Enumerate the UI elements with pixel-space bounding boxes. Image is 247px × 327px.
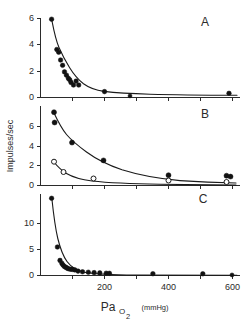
panel-c-ytick-0: 0 [29, 270, 34, 280]
panel-c-xtick-600: 600 [225, 282, 240, 292]
panel-a-ytick-4: 4 [29, 39, 34, 49]
panel-b-points-open [52, 159, 230, 184]
panel-a-ytick-0: 0 [29, 92, 34, 102]
chart-svg: 6 4 2 0 [0, 0, 247, 327]
panel-b-ytick-6: 6 [29, 121, 34, 131]
x-axis-label-pa: Pa [101, 300, 116, 314]
panel-c: 10 5 0 200 400 600 [24, 192, 240, 292]
panel-letter-b: B [201, 107, 209, 121]
panel-c-ytick-10: 10 [24, 218, 34, 228]
panel-c-curve [52, 198, 237, 275]
panel-letter-a: A [201, 15, 209, 29]
panel-a-y-ticks [37, 19, 41, 98]
panel-c-xtick-200: 200 [97, 282, 112, 292]
panel-c-xtick-400: 400 [161, 282, 176, 292]
x-axis-label-group: Pa O 2 (mmHg) [101, 300, 169, 321]
panel-a: 6 4 2 0 [29, 13, 240, 102]
panel-a-ytick-2: 2 [29, 66, 34, 76]
panel-b-y-ticks [37, 126, 41, 185]
panel-a-points [49, 17, 231, 98]
panel-b-ytick-2: 2 [29, 160, 34, 170]
panel-c-ytick-5: 5 [29, 244, 34, 254]
x-axis-label-unit: (mmHg) [141, 303, 169, 312]
x-axis-label-o: O [119, 307, 125, 316]
panel-b-ytick-0: 0 [29, 180, 34, 190]
panel-b-ytick-4: 4 [29, 141, 34, 151]
panel-a-x-ticks [73, 98, 233, 102]
figure-container: 6 4 2 0 [0, 0, 247, 327]
panel-a-ytick-6: 6 [29, 13, 34, 23]
y-axis-label: Impulses/sec [5, 119, 15, 172]
panel-b-x-ticks [73, 186, 233, 190]
panel-c-y-ticks [37, 223, 41, 276]
panel-b-curve-open [54, 162, 237, 186]
panel-letter-c: C [199, 192, 208, 206]
panel-b: 6 4 2 0 [29, 106, 240, 190]
x-axis-label-o-subscript: 2 [126, 312, 130, 321]
panel-b-curve-filled [54, 112, 237, 183]
panel-c-points [49, 196, 234, 277]
